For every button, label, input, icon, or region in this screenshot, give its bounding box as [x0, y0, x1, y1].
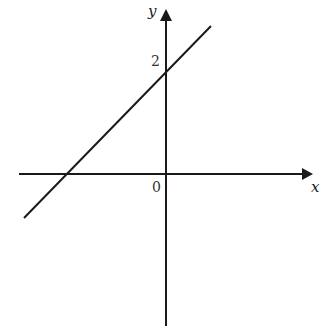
- y-intercept-label: 2: [151, 53, 160, 69]
- y-axis-arrow-icon: [160, 9, 172, 21]
- x-axis-label: x: [311, 178, 320, 196]
- line-graph: y x 0 2: [0, 0, 322, 329]
- origin-label: 0: [152, 179, 161, 195]
- y-axis-label: y: [147, 2, 157, 20]
- graph-line: [24, 26, 211, 218]
